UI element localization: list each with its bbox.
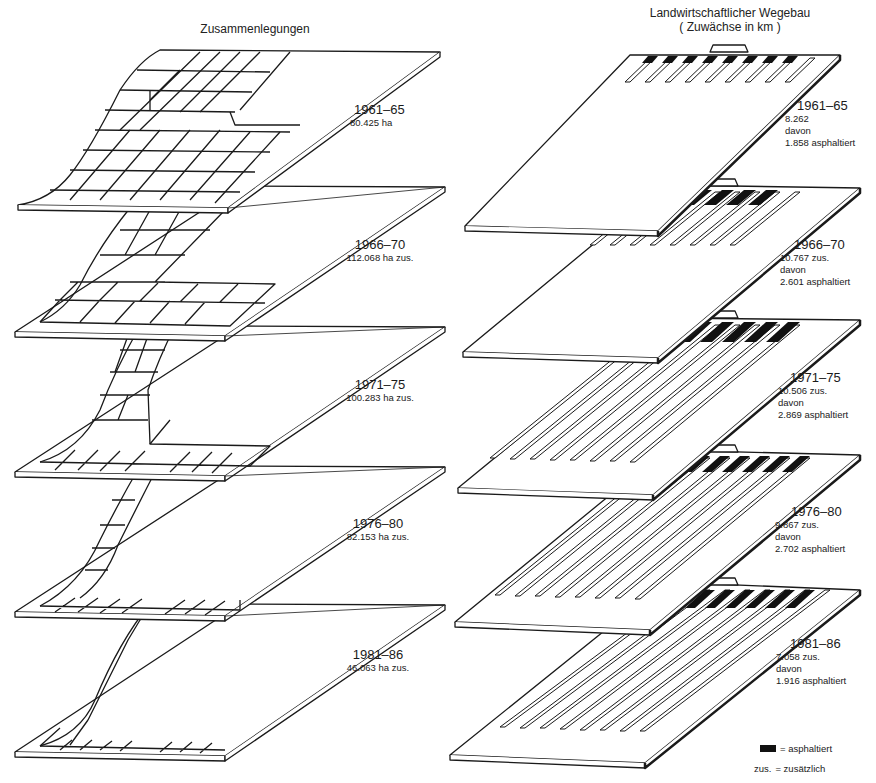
area-value: 80.425 ha — [350, 117, 405, 129]
davon-label: davon — [776, 663, 846, 675]
period-label: 1971–75 — [340, 377, 420, 392]
right-label-1966-70: 1966–70 10.767 zus. davon 2.601 asphalti… — [780, 237, 850, 288]
davon-label: davon — [785, 125, 855, 137]
legend-row-asphalt: = asphaltiert — [760, 738, 832, 758]
asphalt-km: 2.869 asphaltiert — [778, 409, 848, 421]
period-label: 1981–86 — [776, 636, 846, 651]
diagram-artwork — [0, 0, 876, 783]
asphalt-km: 2.702 asphaltiert — [775, 543, 845, 555]
left-label-1976-80: 1976–80 82.153 ha zus. — [338, 516, 418, 543]
asphalt-swatch-icon — [760, 745, 776, 752]
left-label-1981-86: 1981–86 46.063 ha zus. — [338, 647, 418, 674]
area-value: 112.068 ha zus. — [340, 252, 420, 264]
period-label: 1976–80 — [338, 516, 418, 531]
total-km: 8.262 — [785, 113, 855, 125]
right-label-1961-65: 1961–65 8.262 davon 1.858 asphaltiert — [785, 98, 855, 149]
right-label-1971-75: 1971–75 10.506 zus. davon 2.869 asphalti… — [778, 370, 848, 421]
right-label-1981-86: 1981–86 7.058 zus. davon 1.916 asphaltie… — [776, 636, 846, 687]
total-km: 9.867 zus. — [775, 519, 845, 531]
left-panel-title: Zusammenlegungen — [185, 22, 325, 36]
left-sheet-1981-86 — [15, 604, 445, 761]
period-label: 1966–70 — [340, 237, 420, 252]
total-km: 10.506 zus. — [778, 385, 848, 397]
left-label-1971-75: 1971–75 100.283 ha zus. — [340, 377, 420, 404]
legend-zus-abbr: zus. — [754, 763, 771, 774]
legend-asphalt-label: = asphaltiert — [780, 743, 832, 754]
legend-zus-label: = zusätzlich — [775, 763, 825, 774]
left-label-1966-70: 1966–70 112.068 ha zus. — [340, 237, 420, 264]
left-sheet-1976-80 — [15, 466, 445, 621]
davon-label: davon — [778, 397, 848, 409]
asphalt-km: 2.601 asphaltiert — [780, 276, 850, 288]
davon-label: davon — [775, 531, 845, 543]
area-value: 46.063 ha zus. — [338, 662, 418, 674]
legend-row-zus: zus. = zusätzlich — [754, 758, 832, 778]
period-label: 1976–80 — [775, 504, 845, 519]
right-panel-subtitle: ( Zuwächse in km ) — [640, 20, 820, 34]
period-label: 1961–65 — [785, 98, 855, 113]
period-label: 1971–75 — [778, 370, 848, 385]
asphalt-km: 1.858 asphaltiert — [785, 137, 855, 149]
area-value: 100.283 ha zus. — [340, 392, 420, 404]
asphalt-km: 1.916 asphaltiert — [776, 675, 846, 687]
period-label: 1981–86 — [338, 647, 418, 662]
period-label: 1966–70 — [780, 237, 850, 252]
legend: = asphaltiert zus. = zusätzlich — [760, 738, 832, 778]
area-value: 82.153 ha zus. — [338, 531, 418, 543]
right-panel-title-block: Landwirtschaftlicher Wegebau ( Zuwächse … — [640, 6, 820, 34]
total-km: 7.058 zus. — [776, 651, 846, 663]
right-panel-title: Landwirtschaftlicher Wegebau — [640, 6, 820, 20]
period-label: 1961–65 — [350, 102, 405, 117]
davon-label: davon — [780, 264, 850, 276]
left-label-1961-65: 1961–65 80.425 ha — [350, 102, 405, 129]
right-label-1976-80: 1976–80 9.867 zus. davon 2.702 asphaltie… — [775, 504, 845, 555]
total-km: 10.767 zus. — [780, 252, 850, 264]
